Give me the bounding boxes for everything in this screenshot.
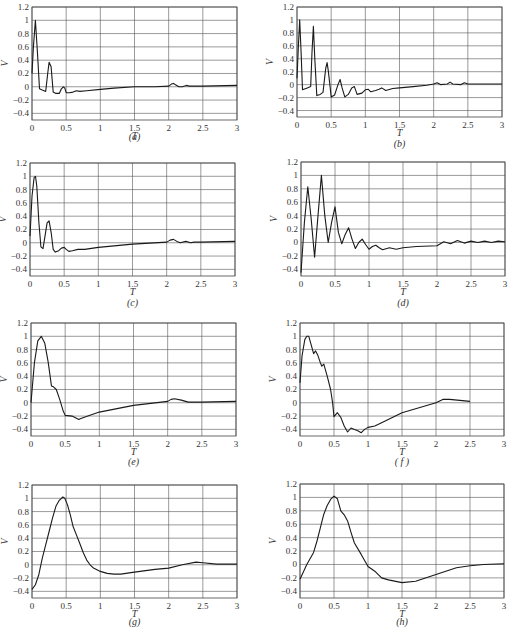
x-tick-label: 1 bbox=[366, 439, 371, 449]
x-tick-label: 0 bbox=[28, 279, 33, 289]
x-tick-label: 1 bbox=[367, 279, 372, 289]
y-tick-label: 0.6 bbox=[283, 41, 295, 51]
x-tick-label: 2.5 bbox=[196, 439, 208, 449]
panel-caption: (c) bbox=[127, 297, 139, 309]
x-tick-label: 0.5 bbox=[329, 279, 341, 289]
y-tick-label: 0.8 bbox=[18, 507, 30, 517]
y-tick-label: 0.6 bbox=[18, 520, 30, 530]
x-tick-label: 0 bbox=[299, 279, 304, 289]
y-tick-label: 0.6 bbox=[16, 198, 28, 208]
panel-a: 00.511.522.531.210.80.60.40.20−0.2−0.4TV… bbox=[0, 2, 240, 143]
panel-f: 00.511.522.531.210.80.60.40.20−0.2−0.4TV… bbox=[267, 318, 507, 468]
x-tick-label: 1 bbox=[363, 120, 368, 130]
y-tick-label: 0.2 bbox=[286, 546, 297, 556]
panel-g: 00.511.522.531.210.80.60.40.20−0.2−0.4TV… bbox=[0, 480, 240, 628]
x-tick-label: 2.5 bbox=[195, 279, 207, 289]
panel-caption: ( f ) bbox=[395, 456, 410, 468]
y-tick-label: 0.2 bbox=[287, 224, 298, 234]
x-tick-label: 0.5 bbox=[60, 439, 72, 449]
y-tick-label: 0.2 bbox=[18, 68, 29, 78]
x-tick-label: 3 bbox=[500, 120, 505, 130]
y-axis-label: V bbox=[267, 375, 278, 383]
x-tick-label: 3 bbox=[235, 601, 240, 611]
x-tick-label: 0.5 bbox=[328, 601, 340, 611]
y-tick-label: 0.2 bbox=[17, 384, 28, 394]
y-tick-label: 0.4 bbox=[286, 533, 298, 543]
panel-c: 00.511.522.531.210.80.60.40.20−0.2−0.4TV… bbox=[0, 158, 238, 309]
series-line bbox=[300, 336, 470, 432]
x-tick-label: 2 bbox=[165, 439, 170, 449]
y-tick-label: 0.8 bbox=[283, 28, 295, 38]
y-tick-label: 1 bbox=[24, 331, 29, 341]
panel-caption: (e) bbox=[128, 456, 140, 468]
y-tick-label: 1.2 bbox=[18, 480, 29, 490]
panel-caption: (b) bbox=[394, 138, 406, 150]
y-tick-label: 0.8 bbox=[286, 506, 298, 516]
x-tick-label: 0.5 bbox=[326, 120, 338, 130]
x-tick-label: 2.5 bbox=[464, 601, 476, 611]
x-tick-label: 1 bbox=[98, 123, 103, 133]
y-axis-label: V bbox=[0, 59, 10, 67]
y-tick-label: −0.2 bbox=[282, 251, 298, 261]
x-tick-label: 2.5 bbox=[197, 123, 209, 133]
y-tick-label: 0.4 bbox=[18, 55, 30, 65]
y-tick-label: 0 bbox=[25, 82, 30, 92]
x-tick-label: 2.5 bbox=[197, 601, 209, 611]
y-tick-label: 0.4 bbox=[17, 371, 29, 381]
panel-caption: (h) bbox=[396, 616, 408, 628]
x-tick-label: 2 bbox=[431, 120, 436, 130]
y-tick-label: −0.2 bbox=[281, 411, 297, 421]
x-tick-label: 1 bbox=[96, 279, 101, 289]
x-tick-label: 0 bbox=[29, 439, 34, 449]
y-tick-label: 0 bbox=[293, 398, 298, 408]
y-tick-label: 1 bbox=[25, 493, 30, 503]
y-axis-label: V bbox=[264, 57, 275, 65]
y-tick-label: 1.2 bbox=[287, 157, 298, 167]
panel-d: 00.511.522.531.210.80.60.40.20−0.2−0.4TV… bbox=[268, 157, 508, 309]
panel-h: 00.511.522.531.210.80.60.40.20−0.2−0.4TV… bbox=[267, 479, 507, 628]
x-tick-label: 0 bbox=[298, 439, 303, 449]
x-tick-label: 2.5 bbox=[464, 439, 476, 449]
y-tick-label: −0.4 bbox=[13, 108, 30, 118]
x-tick-label: 3 bbox=[503, 279, 508, 289]
y-tick-label: −0.2 bbox=[13, 573, 29, 583]
y-tick-label: 1.2 bbox=[17, 318, 28, 328]
x-tick-label: 2.5 bbox=[465, 279, 477, 289]
y-tick-label: 0.2 bbox=[286, 384, 297, 394]
x-tick-label: 3 bbox=[502, 439, 507, 449]
y-tick-label: 1 bbox=[25, 15, 30, 25]
y-tick-label: 0.6 bbox=[287, 197, 299, 207]
y-tick-label: 0 bbox=[294, 237, 299, 247]
x-tick-label: 0 bbox=[298, 601, 303, 611]
y-tick-label: −0.4 bbox=[281, 424, 298, 434]
x-tick-label: 0.5 bbox=[61, 601, 73, 611]
y-tick-label: −0.2 bbox=[13, 95, 29, 105]
y-tick-label: 1.2 bbox=[286, 318, 297, 328]
x-tick-label: 3 bbox=[233, 279, 238, 289]
y-tick-label: 0.2 bbox=[283, 67, 294, 77]
y-tick-label: −0.4 bbox=[281, 586, 298, 596]
y-tick-label: 1.2 bbox=[283, 2, 294, 12]
x-tick-label: 2 bbox=[434, 439, 439, 449]
y-tick-label: 0.4 bbox=[18, 533, 30, 543]
x-tick-label: 3 bbox=[502, 601, 507, 611]
panel-caption: (a) bbox=[129, 131, 141, 143]
x-tick-label: 2 bbox=[435, 279, 440, 289]
y-tick-label: 0 bbox=[24, 398, 29, 408]
y-tick-label: 0.8 bbox=[287, 184, 299, 194]
y-tick-label: 0.6 bbox=[286, 358, 298, 368]
y-tick-label: −0.4 bbox=[282, 264, 299, 274]
y-tick-label: −0.2 bbox=[281, 573, 297, 583]
x-tick-label: 1 bbox=[366, 601, 371, 611]
x-tick-label: 2 bbox=[434, 601, 439, 611]
y-tick-label: −0.4 bbox=[278, 106, 295, 116]
y-tick-label: 0.4 bbox=[286, 371, 298, 381]
x-tick-label: 2 bbox=[166, 123, 171, 133]
x-tick-label: 1 bbox=[98, 601, 103, 611]
y-tick-label: 0.2 bbox=[16, 224, 27, 234]
x-tick-label: 2 bbox=[166, 601, 171, 611]
y-tick-label: −0.4 bbox=[12, 424, 29, 434]
x-tick-label: 3 bbox=[234, 439, 239, 449]
y-tick-label: −0.2 bbox=[278, 93, 294, 103]
y-axis-label: V bbox=[267, 536, 278, 544]
